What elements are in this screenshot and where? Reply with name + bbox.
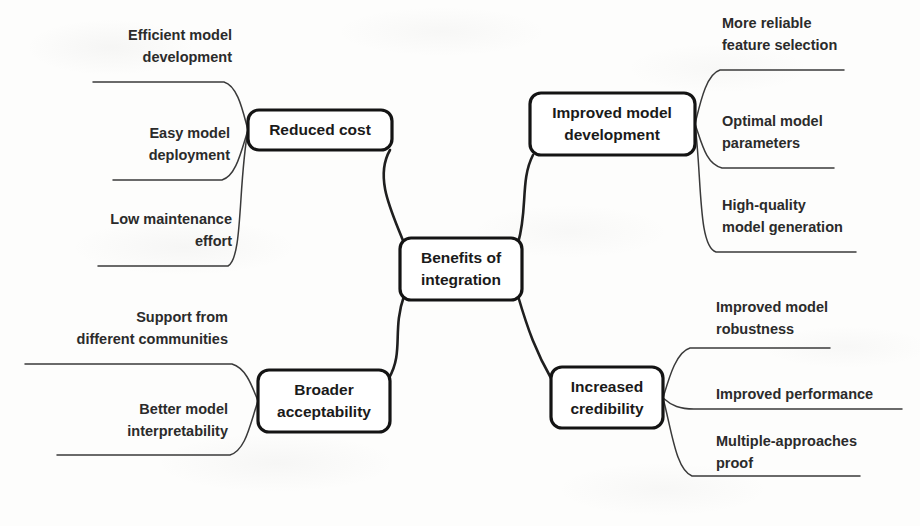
leaf-optimal-model-parameters-line2: parameters bbox=[722, 135, 800, 151]
leaf-more-reliable-feature-selection-line1: More reliable bbox=[722, 15, 811, 31]
leaf-low-maintenance-effort[interactable]: Low maintenance effort bbox=[110, 211, 232, 249]
node-reduced-cost[interactable]: Reduced cost bbox=[248, 110, 392, 150]
leaf-support-from-different-communities-line1: Support from bbox=[136, 309, 228, 325]
leaf-multiple-approaches-proof-line1: Multiple-approaches bbox=[716, 433, 857, 449]
node-center-label-line2: integration bbox=[421, 271, 501, 288]
leaf-efficient-model-development-line1: Efficient model bbox=[128, 27, 232, 43]
leaf-low-maintenance-effort-line2: effort bbox=[195, 233, 232, 249]
node-improved-model-development[interactable]: Improved model development bbox=[530, 93, 695, 155]
leaf-more-reliable-feature-selection[interactable]: More reliable feature selection bbox=[722, 15, 837, 53]
leaf-support-from-different-communities-line2: different communities bbox=[77, 331, 228, 347]
node-broader-acceptability-label-line1: Broader bbox=[294, 381, 353, 398]
leaf-improved-performance[interactable]: Improved performance bbox=[716, 386, 873, 402]
leaf-high-quality-model-generation-line1: High-quality bbox=[722, 197, 806, 213]
node-center-benefits-of-integration[interactable]: Benefits of integration bbox=[400, 238, 522, 300]
node-broader-acceptability[interactable]: Broader acceptability bbox=[258, 370, 390, 432]
connector-center-to-improved-model-development bbox=[518, 155, 533, 243]
leaf-better-model-interpretability-line2: interpretability bbox=[127, 423, 228, 439]
leaf-support-from-different-communities[interactable]: Support from different communities bbox=[77, 309, 228, 347]
leaf-efficient-model-development-line2: development bbox=[143, 49, 233, 65]
node-center-box bbox=[400, 238, 522, 300]
leaf-optimal-model-parameters[interactable]: Optimal model parameters bbox=[722, 113, 823, 151]
node-improved-model-development-label-line1: Improved model bbox=[552, 104, 672, 121]
node-increased-credibility-label-line1: Increased bbox=[571, 378, 643, 395]
twig-support-from-different-communities bbox=[25, 364, 258, 401]
leaf-high-quality-model-generation[interactable]: High-quality model generation bbox=[722, 197, 843, 235]
node-broader-acceptability-label-line2: acceptability bbox=[277, 403, 371, 420]
leaf-improved-model-robustness-line2: robustness bbox=[716, 321, 794, 337]
leaf-easy-model-deployment-line2: deployment bbox=[149, 147, 231, 163]
node-reduced-cost-label: Reduced cost bbox=[269, 121, 371, 138]
node-broader-acceptability-box bbox=[258, 370, 390, 432]
connector-center-to-broader-acceptability bbox=[389, 296, 404, 378]
mind-map-canvas: Reduced cost Improved model development … bbox=[0, 0, 920, 526]
node-increased-credibility-label-line2: credibility bbox=[570, 400, 644, 417]
node-increased-credibility-box bbox=[551, 367, 663, 428]
node-center-label-line1: Benefits of bbox=[421, 249, 502, 266]
node-increased-credibility[interactable]: Increased credibility bbox=[551, 367, 663, 428]
leaf-multiple-approaches-proof-line2: proof bbox=[716, 455, 753, 471]
twig-efficient-model-development bbox=[93, 82, 248, 130]
node-improved-model-development-box bbox=[530, 93, 695, 155]
leaf-better-model-interpretability[interactable]: Better model interpretability bbox=[127, 401, 228, 439]
leaf-more-reliable-feature-selection-line2: feature selection bbox=[722, 37, 837, 53]
leaf-multiple-approaches-proof[interactable]: Multiple-approaches proof bbox=[716, 433, 857, 471]
leaf-efficient-model-development[interactable]: Efficient model development bbox=[128, 27, 232, 65]
leaf-high-quality-model-generation-line2: model generation bbox=[722, 219, 843, 235]
connector-center-to-increased-credibility bbox=[518, 296, 552, 380]
mind-map-svg: Reduced cost Improved model development … bbox=[0, 0, 920, 526]
leaf-better-model-interpretability-line1: Better model bbox=[139, 401, 228, 417]
connector-center-to-reduced-cost bbox=[384, 150, 404, 243]
leaf-easy-model-deployment[interactable]: Easy model deployment bbox=[149, 125, 231, 163]
leaf-low-maintenance-effort-line1: Low maintenance bbox=[110, 211, 232, 227]
leaf-easy-model-deployment-line1: Easy model bbox=[149, 125, 230, 141]
leaf-improved-performance-line1: Improved performance bbox=[716, 386, 873, 402]
leaf-optimal-model-parameters-line1: Optimal model bbox=[722, 113, 823, 129]
leaf-improved-model-robustness-line1: Improved model bbox=[716, 299, 828, 315]
node-improved-model-development-label-line2: development bbox=[564, 126, 660, 143]
leaf-improved-model-robustness[interactable]: Improved model robustness bbox=[716, 299, 828, 337]
